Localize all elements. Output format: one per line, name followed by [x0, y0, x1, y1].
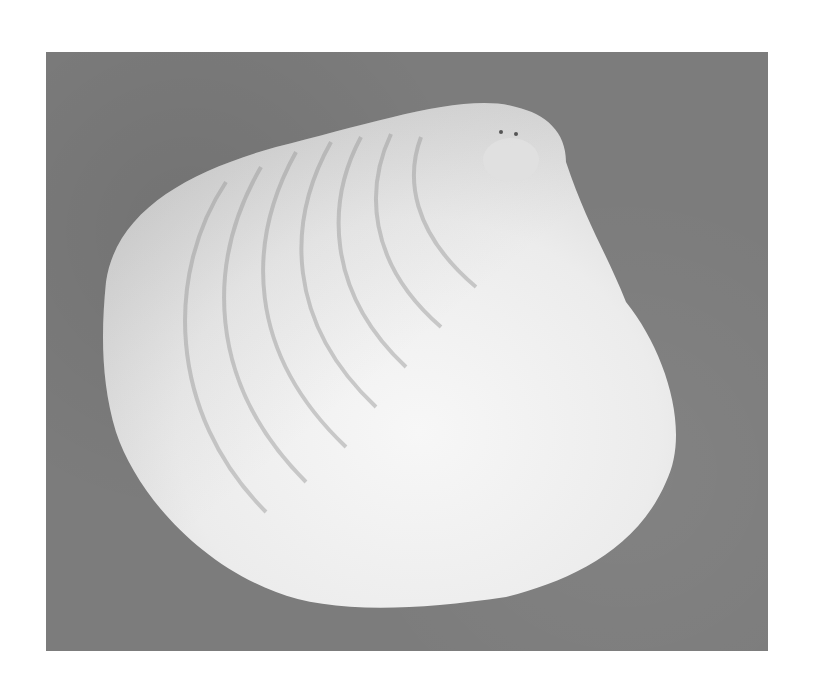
clam-shell-illustration — [46, 52, 768, 651]
shell-photograph — [46, 52, 768, 651]
shell-umbo — [483, 138, 539, 182]
